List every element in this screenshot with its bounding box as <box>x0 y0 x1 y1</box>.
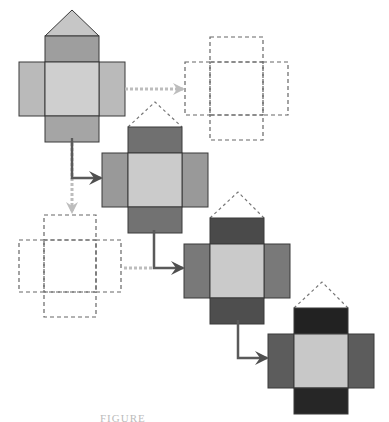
triangle-flap-outline <box>294 282 348 308</box>
nets-layer <box>19 10 374 414</box>
ghost-right-face <box>96 240 121 292</box>
triangle-flap-outline <box>210 192 264 218</box>
ghost-bottom-face <box>210 115 263 140</box>
arrow-net2-to-net3 <box>154 230 183 268</box>
ghost-right-face <box>263 62 288 115</box>
triangle-flap <box>45 10 99 36</box>
left-face <box>184 244 210 298</box>
left-face <box>268 334 294 388</box>
right-face <box>264 244 290 298</box>
left-face <box>102 153 128 207</box>
net-4 <box>268 282 374 414</box>
figure-caption: FIGURE <box>100 412 280 422</box>
center-face <box>45 62 99 116</box>
ghost-center-face <box>44 240 96 292</box>
ghost-left-face <box>19 240 44 292</box>
net-ghost-right <box>185 37 288 140</box>
left-face <box>19 62 45 116</box>
net-2 <box>102 102 208 233</box>
center-face <box>210 244 264 298</box>
center-face <box>294 334 348 388</box>
ghost-top-face <box>210 37 263 62</box>
bottom-face <box>294 388 348 414</box>
net-1 <box>19 10 125 142</box>
net-ghost-left <box>19 215 121 317</box>
ghost-bottom-face <box>44 292 96 317</box>
net-3 <box>184 192 290 324</box>
triangle-flap-outline <box>128 102 182 127</box>
arrow-net1-to-net2 <box>72 138 101 178</box>
bottom-face <box>128 207 182 233</box>
right-face <box>348 334 374 388</box>
ghost-left-face <box>185 62 210 115</box>
arrow-net3-to-net4 <box>238 320 267 358</box>
top-face <box>294 308 348 334</box>
top-face <box>45 36 99 62</box>
top-face <box>210 218 264 244</box>
top-face <box>128 127 182 153</box>
right-face <box>99 62 125 116</box>
ghost-top-face <box>44 215 96 240</box>
right-face <box>182 153 208 207</box>
ghost-center-face <box>210 62 263 115</box>
center-face <box>128 153 182 207</box>
